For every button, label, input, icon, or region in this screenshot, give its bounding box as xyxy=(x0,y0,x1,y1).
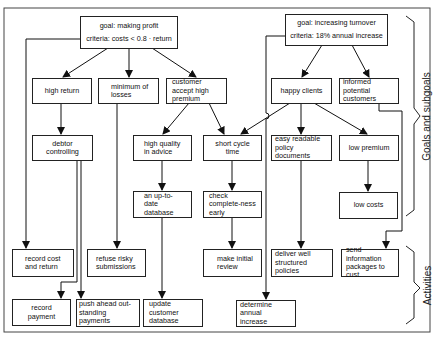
goal-title: goal: making profit xyxy=(100,22,159,30)
activity-deliver-well-structured-policies[interactable]: deliver well structured policies xyxy=(271,249,333,277)
subgoal-debtor-controlling[interactable]: debtor controlling xyxy=(32,135,93,161)
goal-increasing-turnover[interactable]: goal: increasing turnover criteria: 18% … xyxy=(285,14,388,46)
subgoal-minimum-of-losses[interactable]: minimum of losses xyxy=(98,78,159,104)
activity-update-customer-database[interactable]: update customer database xyxy=(143,299,203,327)
subgoal-low-premium[interactable]: low premium xyxy=(339,135,399,161)
subgoal-customer-accept-high-premium[interactable]: customer accept high premium xyxy=(166,78,227,104)
diagram-canvas: goal: making profit criteria: costs < 0.… xyxy=(0,0,444,337)
activity-send-information-packages[interactable]: send information packages to cust. xyxy=(341,249,399,277)
goal-title: goal: increasing turnover xyxy=(297,19,376,27)
label-goals-and-subgoals: Goals and subgoals xyxy=(421,67,432,167)
activity-record-cost-and-return[interactable]: record cost and return xyxy=(12,249,74,277)
outer-frame xyxy=(4,8,430,332)
subgoal-informed-potential-customers[interactable]: informed potential customers xyxy=(339,78,399,104)
brace-goals xyxy=(406,16,420,216)
subgoal-low-costs[interactable]: low costs xyxy=(339,192,398,219)
goal-criteria: criteria: costs < 0.8 · return xyxy=(86,35,172,43)
activity-make-initial-review[interactable]: make initial review xyxy=(203,249,262,277)
goal-criteria: criteria: 18% annual increase xyxy=(290,32,383,40)
subgoal-high-quality-in-advice[interactable]: high quality in advice xyxy=(133,135,192,161)
subgoal-easy-readable-policy-documents[interactable]: easy readable policy documents xyxy=(271,135,332,161)
connector-layer xyxy=(0,0,444,337)
subgoal-high-return[interactable]: high return xyxy=(32,78,92,104)
subgoal-short-cycle-time[interactable]: short cycle time xyxy=(203,135,262,161)
activity-record-payment[interactable]: record payment xyxy=(12,299,71,326)
label-activities: Activities xyxy=(422,256,433,316)
goal-making-profit[interactable]: goal: making profit criteria: costs < 0.… xyxy=(80,16,178,49)
brace-activities xyxy=(406,246,420,324)
subgoal-happy-clients[interactable]: happy clients xyxy=(271,78,332,104)
activity-refuse-risky-submissions[interactable]: refuse risky submissions xyxy=(87,249,146,277)
activity-push-ahead-outstanding-payments[interactable]: push ahead out-standing payments xyxy=(76,299,140,327)
activity-determine-annual-increase[interactable]: determine annual increase xyxy=(236,300,296,327)
subgoal-up-to-date-database[interactable]: an up-to-date database xyxy=(133,191,192,218)
subgoal-check-completeness-early[interactable]: check complete-ness early xyxy=(203,191,262,218)
